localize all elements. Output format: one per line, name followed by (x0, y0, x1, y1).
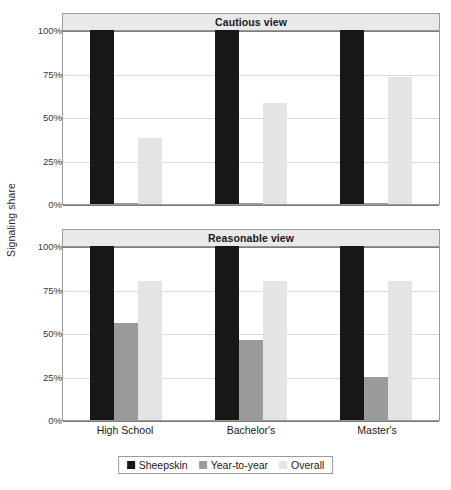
plot-area-cautious (63, 31, 439, 204)
bar-group (314, 247, 439, 420)
x-axis-labels: High SchoolBachelor'sMaster's (62, 424, 440, 442)
panel-title-reasonable: Reasonable view (208, 232, 294, 244)
panel-title-strip-cautious: Cautious view (63, 14, 439, 31)
legend-item[interactable]: Year-to-year (199, 459, 268, 471)
y-tick-label: 50% (26, 328, 62, 339)
bar-group (188, 247, 313, 420)
y-tick-label: 100% (26, 241, 62, 252)
panel-reasonable-view: Reasonable view (62, 229, 440, 421)
legend-label: Sheepskin (139, 459, 188, 471)
gridline (63, 421, 439, 422)
y-tick-label: 75% (26, 68, 62, 79)
bar (340, 30, 364, 204)
bar-group (63, 31, 188, 204)
bar (114, 323, 138, 420)
bar (114, 203, 138, 204)
bar (263, 281, 287, 420)
bar (90, 246, 114, 420)
chart-legend: SheepskinYear-to-yearOverall (118, 456, 334, 474)
bar-group (314, 31, 439, 204)
bar (215, 246, 239, 420)
y-tick-label: 75% (26, 284, 62, 295)
legend-label: Year-to-year (211, 459, 268, 471)
bar-group (188, 31, 313, 204)
legend-swatch-icon (199, 461, 207, 469)
bar (215, 30, 239, 204)
bar (239, 340, 263, 420)
legend-label: Overall (291, 459, 324, 471)
bar (388, 281, 412, 420)
panel-title-cautious: Cautious view (215, 16, 287, 28)
bar (263, 103, 287, 204)
y-tick-label: 50% (26, 112, 62, 123)
bar (388, 77, 412, 204)
legend-item[interactable]: Sheepskin (127, 459, 188, 471)
y-axis-ticks-reasonable: 100%75%50%25%0% (16, 229, 62, 421)
y-tick-label: 100% (26, 25, 62, 36)
plot-area-reasonable (63, 247, 439, 420)
bar (138, 281, 162, 420)
legend-swatch-icon (127, 461, 135, 469)
signaling-share-chart: Signaling share 100%75%50%25%0% 100%75%5… (0, 0, 451, 490)
y-axis-ticks-cautious: 100%75%50%25%0% (16, 13, 62, 205)
legend-item[interactable]: Overall (279, 459, 324, 471)
bar (340, 246, 364, 420)
x-tick-label: Bachelor's (227, 424, 276, 436)
bar (239, 203, 263, 204)
legend-swatch-icon (279, 461, 287, 469)
bar-group (63, 247, 188, 420)
y-tick-label: 0% (26, 415, 62, 426)
y-tick-label: 25% (26, 371, 62, 382)
bar (364, 377, 388, 421)
panel-cautious-view: Cautious view (62, 13, 440, 205)
gridline (63, 205, 439, 206)
y-tick-label: 0% (26, 199, 62, 210)
bar (138, 138, 162, 204)
panel-title-strip-reasonable: Reasonable view (63, 230, 439, 247)
bar (364, 203, 388, 204)
x-tick-label: Master's (357, 424, 396, 436)
bar (90, 30, 114, 204)
y-tick-label: 25% (26, 155, 62, 166)
x-tick-label: High School (97, 424, 154, 436)
